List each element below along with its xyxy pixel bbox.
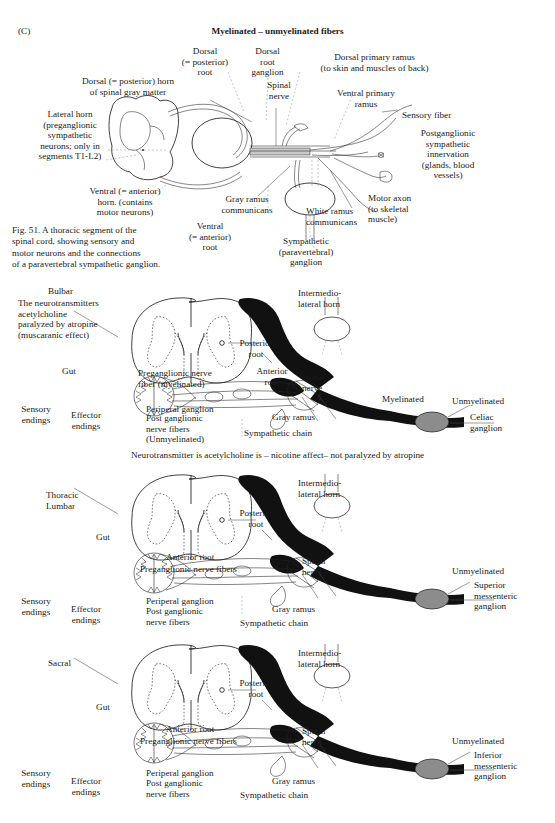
bulbar-anterior-root: Anterior root [252, 366, 292, 387]
label-dorsal-root-ganglion: Dorsal root ganglion [240, 46, 295, 78]
bulbar-note: The neurotransmitters acetylcholine para… [18, 298, 148, 340]
bulbar-sympathetic-chain: Sympathetic chain [244, 428, 312, 439]
sac-spinal-nerve: Spinal nerve [302, 726, 342, 747]
tl-unmyelinated: Unmyelinated [452, 566, 504, 577]
bulbar-gray-ramus: Gray ramus [272, 412, 315, 423]
sac-ganglion: Inferior messenteric ganglion [474, 750, 540, 782]
label-lateral-horn: Lateral horn (preganglionic sympathetic … [20, 109, 120, 162]
bulbar-myelinated: Myelinated [382, 394, 424, 405]
tl-intermediolateral: Intermedio- lateral horn [298, 478, 360, 499]
label-sensory-fiber: Sensory fiber [402, 110, 451, 121]
sac-intermediolateral: Intermedio- lateral horn [298, 648, 360, 669]
section-title-thoracic-lumbar: Thoracic Lumbar [46, 490, 116, 511]
sac-gut: Gut [96, 702, 110, 713]
bulbar-postganglionic: Post ganglionic nerve fibers (Unmyelinat… [146, 413, 236, 445]
bulbar-ganglion: Celiac ganglion [470, 412, 530, 433]
label-ventral-horn: Ventral (= anterior) horn. (contains mot… [60, 186, 190, 218]
label-spinal-nerve-top: Spinal nerve [255, 80, 303, 101]
sac-effector-endings: Effector endings [60, 776, 112, 797]
sac-sympathetic-chain: Sympathetic chain [240, 790, 308, 801]
bulbar-unmyelinated: Unmyelinated [452, 396, 504, 407]
figure-title: Myelinated – unmyelinated fibers [0, 26, 555, 37]
bulbar-effector-endings: Effector endings [60, 410, 112, 431]
sac-unmyelinated: Unmyelinated [452, 736, 504, 747]
label-dorsal-horn: Dorsal (= posterior) horn of spinal gray… [48, 76, 208, 97]
figure-caption: Fig. 51. A thoracic segment of the spina… [12, 225, 222, 271]
bulbar-spinal-nerve: Spinal nerve [302, 372, 342, 393]
tl-gray-ramus: Gray ramus [272, 604, 315, 615]
divider-note: Neurotransmitter is acetylcholine is – n… [0, 450, 555, 461]
tl-effector-endings: Effector endings [60, 604, 112, 625]
label-white-ramus-communicans: White ramus communicans [306, 206, 357, 227]
sac-preganglionic: Preganglionic nerve fibers [140, 736, 237, 747]
bulbar-preganglionic: Preganglionic nerve fiber (myelinated) [138, 368, 258, 389]
tl-sympathetic-chain: Sympathetic chain [240, 618, 308, 629]
section-title-bulbar: Bulbar [48, 286, 73, 297]
section-title-sacral: Sacral [48, 658, 71, 669]
label-dorsal-root: Dorsal (= posterior) root [165, 46, 245, 78]
tl-gut: Gut [96, 532, 110, 543]
tl-anterior-root: Anterior root [166, 552, 214, 563]
label-dorsal-primary-ramus: Dorsal primary ramus (to skin and muscle… [292, 52, 457, 73]
sac-sensory-endings: Sensory endings [10, 768, 62, 789]
sac-postganglionic: Post ganglionic nerve fibers [146, 778, 236, 799]
tl-spinal-nerve: Spinal nerve [302, 556, 342, 577]
tl-ganglion: Superior messenteric ganglion [474, 580, 540, 612]
label-motor-axon: Motor axon (to skeletal muscle) [368, 193, 411, 225]
label-ventral-primary-ramus: Ventral primary ramus [318, 88, 414, 109]
sac-anterior-root: Anterior root [166, 724, 214, 735]
sac-gray-ramus: Gray ramus [272, 776, 315, 787]
bulbar-sensory-endings: Sensory endings [10, 404, 62, 425]
sac-periperal-ganglion: Periperal ganglion [146, 768, 214, 779]
tl-preganglionic: Preganglionic nerve fibers [140, 564, 237, 575]
tl-postganglionic: Post ganglionic nerve fibers [146, 606, 236, 627]
label-postganglionic-innervation: Postganglionic sympathetic innervation (… [392, 128, 504, 181]
thoracic-lumbar-illustration [74, 474, 494, 616]
bulbar-gut: Gut [62, 366, 76, 377]
bulbar-posterior-root: Posterior root [232, 338, 280, 359]
label-gray-ramus-communicans: Gray ramus communicans [208, 194, 286, 215]
bulbar-intermediolateral: Intermedio- lateral horn [298, 288, 360, 309]
sac-posterior-root: Posterior root [232, 678, 280, 699]
sacral-illustration [74, 644, 494, 779]
tl-posterior-root: Posterior root [232, 508, 280, 529]
label-sympathetic-ganglion: Sympathetic (paravertebral) ganglion [258, 236, 354, 268]
tl-periperal-ganglion: Periperal ganglion [146, 596, 214, 607]
tl-sensory-endings: Sensory endings [10, 596, 62, 617]
